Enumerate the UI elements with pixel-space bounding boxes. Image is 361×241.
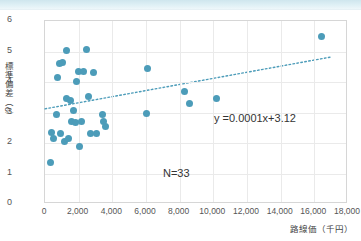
y-tick-label: 1	[0, 167, 12, 177]
data-point	[99, 111, 106, 118]
gridline-horizontal	[45, 52, 346, 53]
gridline-vertical	[112, 21, 113, 202]
gridline-horizontal	[45, 174, 346, 175]
data-point	[143, 110, 150, 117]
header-text-fragment: ─────	[105, 0, 130, 3]
data-point	[181, 88, 188, 95]
sample-size-label: N=33	[163, 167, 190, 179]
data-point	[80, 68, 87, 75]
data-point	[102, 123, 109, 130]
y-tick-label: 2	[0, 136, 12, 146]
y-axis-label: 標準偏差（σ）	[3, 62, 12, 121]
y-tick-label: 0	[0, 197, 12, 207]
data-point	[53, 111, 60, 118]
data-point	[57, 130, 64, 137]
gridline-vertical	[79, 21, 80, 202]
header-text-fragment: ────	[215, 0, 235, 3]
gridline-horizontal	[45, 113, 346, 114]
data-point	[318, 33, 325, 40]
y-tick-label: 5	[0, 45, 12, 55]
x-axis-label: 路線価（千円）	[290, 222, 353, 234]
gridline-horizontal	[45, 82, 346, 83]
y-tick-label: 6	[0, 14, 12, 24]
data-point	[144, 65, 151, 72]
data-point	[73, 78, 80, 85]
plot-area	[44, 20, 347, 203]
header-text-fragment: ─ ──	[320, 0, 337, 3]
page-header-strip: ────────── ──	[0, 0, 361, 9]
gridline-vertical	[314, 21, 315, 202]
header-divider	[0, 9, 361, 10]
data-point	[76, 143, 83, 150]
gridline-horizontal	[45, 143, 346, 144]
x-tick-label: 18,000	[324, 206, 361, 216]
regression-equation: y =0.0001x+3.12	[214, 112, 296, 124]
data-point	[83, 46, 90, 53]
data-point	[47, 159, 54, 166]
scatter-plot-figure: ────────── ── 0123456 02,0004,0006,0008,…	[0, 0, 361, 241]
